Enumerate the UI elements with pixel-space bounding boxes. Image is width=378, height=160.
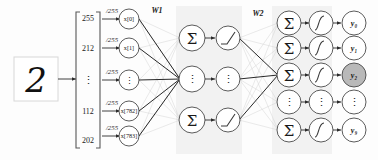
vector-value-4: 202 bbox=[82, 136, 94, 145]
output-sum-node-ellipsis-label: ⋮ bbox=[284, 96, 295, 109]
w1-edge-group bbox=[139, 19, 180, 136]
arrowhead-y-4 bbox=[337, 128, 341, 132]
scale-label-1: /255 bbox=[105, 36, 119, 43]
output-sum-node-2-label: Σ bbox=[284, 67, 295, 85]
arrowhead-y-3 bbox=[337, 100, 341, 104]
input-node-0-label: x[0] bbox=[124, 15, 134, 22]
output-sum-node-9-label: Σ bbox=[284, 122, 295, 140]
output-sum-node-0-label: Σ bbox=[284, 15, 295, 33]
output-sigmoid-node-9[interactable] bbox=[309, 118, 333, 142]
w2-label: W2 bbox=[252, 9, 263, 18]
hidden-sum-node-1-label: Σ bbox=[187, 112, 198, 130]
output-node-y0-label: y₀ bbox=[350, 19, 358, 28]
arrowhead-digit bbox=[72, 77, 76, 81]
input-node-ellipsis-label: ⋮ bbox=[125, 76, 134, 86]
vector-bracket-right bbox=[96, 12, 100, 148]
output-sigmoid-node-ellipsis-label: ⋮ bbox=[316, 96, 327, 109]
hidden-sum-node-0-label: Σ bbox=[187, 30, 198, 48]
output-node-y2-label: y₂ bbox=[350, 71, 358, 80]
scale-label-2: /255 bbox=[105, 68, 119, 75]
hidden-relu-node-0[interactable] bbox=[216, 26, 240, 50]
scale-label-4: /255 bbox=[105, 124, 119, 131]
output-sigmoid-node-1[interactable] bbox=[309, 36, 333, 60]
output-sum-node-1-label: Σ bbox=[284, 40, 295, 58]
scale-label-0: /255 bbox=[105, 7, 119, 14]
neural-network-diagram: 2 255 212 ⋮ 112 202 /255 /255 /255 /255 … bbox=[0, 0, 378, 160]
arrowhead-y-1 bbox=[337, 46, 341, 50]
handwritten-digit-glyph: 2 bbox=[24, 60, 47, 100]
input-node-783-label: x[783] bbox=[121, 132, 138, 139]
network-svg: 2 255 212 ⋮ 112 202 /255 /255 /255 /255 … bbox=[0, 0, 378, 160]
vector-value-ellipsis: ⋮ bbox=[83, 74, 94, 87]
output-sigmoid-node-0[interactable] bbox=[309, 11, 333, 35]
vector-value-1: 212 bbox=[82, 44, 94, 53]
scale-label-3: /255 bbox=[105, 99, 119, 106]
output-node-y9-label: y₉ bbox=[350, 126, 358, 135]
vector-value-0: 255 bbox=[82, 14, 94, 23]
input-node-782-label: x[782] bbox=[121, 107, 138, 114]
w1-label: W1 bbox=[151, 6, 162, 15]
vector-value-3: 112 bbox=[82, 107, 94, 116]
output-node-ellipsis-label: ⋮ bbox=[349, 96, 360, 109]
input-node-1-label: x[1] bbox=[124, 44, 134, 51]
output-node-y1-label: y₁ bbox=[350, 44, 357, 53]
hidden-relu-node-ellipsis-label: ⋮ bbox=[223, 73, 234, 86]
arrowhead-y-2 bbox=[337, 73, 341, 77]
arrowhead-y-0 bbox=[337, 21, 341, 25]
hidden-sum-node-ellipsis-label: ⋮ bbox=[187, 73, 198, 86]
output-sigmoid-node-2[interactable] bbox=[309, 63, 333, 87]
hidden-relu-node-1[interactable] bbox=[216, 108, 240, 132]
vector-bracket-left bbox=[76, 12, 80, 148]
